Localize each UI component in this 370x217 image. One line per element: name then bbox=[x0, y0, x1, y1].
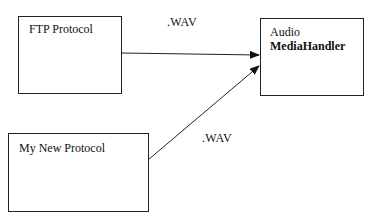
my-new-protocol-label: My New Protocol bbox=[19, 141, 105, 155]
audio-label: Audio bbox=[270, 25, 300, 39]
ftp-protocol-box: FTP Protocol bbox=[18, 16, 122, 94]
audio-mediahandler-box: Audio MediaHandler bbox=[260, 18, 364, 96]
ftp-protocol-label: FTP Protocol bbox=[29, 22, 93, 36]
wav-label-bottom: .WAV bbox=[202, 131, 232, 146]
mediahandler-label: MediaHandler bbox=[270, 39, 345, 53]
my-new-protocol-box: My New Protocol bbox=[8, 133, 149, 212]
wav-label-top: .WAV bbox=[167, 15, 197, 30]
arrow-ftp-to-audio bbox=[121, 53, 259, 55]
